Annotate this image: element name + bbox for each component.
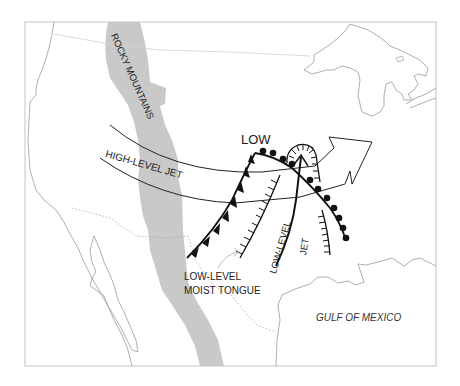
rocky-mountains-region <box>105 22 224 366</box>
weather-map <box>0 0 460 386</box>
cold-front-line <box>187 153 255 258</box>
baja-peninsula <box>90 236 138 352</box>
moist-tongue-label-line1: LOW-LEVEL <box>184 272 241 282</box>
small-lake <box>396 56 404 62</box>
trough-hatches-right <box>318 216 330 252</box>
high-level-jet-arrowhead <box>315 137 372 184</box>
moist-tongue-label-line2: MOIST TONGUE <box>184 286 261 296</box>
low-pressure-label: LOW <box>241 133 271 146</box>
gulf-of-mexico-label: GULF OF MEXICO <box>316 313 401 323</box>
trough-line-right <box>322 210 330 255</box>
canada-us-border <box>54 34 310 56</box>
